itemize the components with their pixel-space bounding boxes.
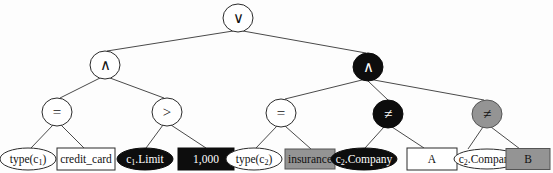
gt-left-label: > [163, 104, 171, 120]
and-left-label: ∧ [100, 57, 111, 73]
tree-edge [392, 127, 424, 148]
leaf-b-label: B [524, 153, 532, 165]
tree-node-and-right: ∧ [353, 53, 383, 81]
leaf-a-label: A [428, 153, 437, 165]
tree-edge [285, 80, 362, 99]
leaf-c2-company-black-label: c2.Company [336, 153, 393, 167]
tree-leaf-leaf-b: B [506, 149, 550, 170]
tree-node-neq-black: ≠ [373, 100, 403, 128]
tree-edge [374, 80, 484, 100]
leaf-insurance-label: insurance [288, 153, 332, 165]
tree-leaf-leaf-insurance: insurance [285, 149, 335, 169]
tree-edge [171, 125, 206, 148]
tree-leaf-leaf-c2-company-black: c2.Company [331, 148, 397, 170]
tree-leaf-leaf-credit-card: credit_card [57, 148, 115, 170]
tree-node-and-left: ∧ [90, 51, 120, 79]
tree-edge [107, 31, 233, 51]
tree-svg: ∨∧∧=>=≠≠ type(c1)credit_cardc1.Limit1,00… [0, 0, 553, 173]
eq-left-label: = [53, 104, 61, 120]
tree-edge [256, 126, 277, 148]
leaf-1000-label: 1,000 [193, 153, 219, 166]
tree-leaf-leaf-a: A [407, 148, 457, 170]
leaves-layer: type(c1)credit_cardc1.Limit1,000type(c2)… [0, 148, 550, 170]
tree-edge [61, 125, 84, 148]
and-right-label: ∧ [363, 59, 374, 75]
tree-edge [491, 127, 520, 149]
leaf-credit-card-label: credit_card [60, 153, 112, 165]
tree-node-neq-gray: ≠ [472, 100, 502, 128]
tree-edge [31, 125, 53, 148]
tree-edge [468, 127, 483, 149]
neq-gray-label: ≠ [483, 106, 491, 122]
neq-black-label: ≠ [384, 106, 392, 122]
eq-right-label: = [277, 105, 285, 121]
tree-node-root-or: ∨ [223, 4, 253, 32]
tree-edge [146, 125, 163, 148]
tree-edge [243, 31, 366, 53]
tree-node-eq-right: = [266, 99, 296, 127]
edges-layer [31, 31, 520, 149]
tree-leaf-leaf-type-c1: type(c1) [0, 148, 56, 170]
tree-leaf-leaf-type-c2: type(c2) [226, 148, 282, 170]
tree-leaf-leaf-c1-limit: c1.Limit [117, 148, 173, 170]
tree-edge [60, 78, 100, 98]
tree-edge [365, 127, 384, 148]
tree-edge [285, 126, 311, 149]
tree-edge [110, 78, 164, 98]
tree-node-gt-left: > [152, 98, 182, 126]
root-or-label: ∨ [233, 10, 244, 26]
nodes-layer: ∨∧∧=>=≠≠ [42, 4, 502, 128]
expression-tree-figure: ∨∧∧=>=≠≠ type(c1)credit_cardc1.Limit1,00… [0, 0, 553, 173]
tree-node-eq-left: = [42, 98, 72, 126]
tree-edge [368, 81, 388, 100]
